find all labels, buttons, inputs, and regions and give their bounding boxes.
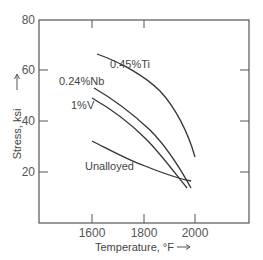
label-v: 1%V — [71, 99, 95, 111]
plot-frame — [39, 20, 249, 223]
curve-v — [92, 98, 187, 188]
x-tick-label-1600: 1600 — [79, 226, 106, 240]
curve-nb — [94, 88, 191, 188]
y-tick-label-40: 40 — [22, 114, 36, 128]
label-ti: 0.45%Ti — [110, 58, 150, 70]
label-nb: 0.24%Nb — [59, 75, 104, 87]
label-unalloyed: Unalloyed — [85, 160, 134, 172]
y-ticks-right — [240, 70, 249, 172]
stress-temperature-chart: 80 60 40 20 1600 1800 2000 Temperature, … — [0, 0, 263, 260]
x-ticks-top — [92, 20, 144, 28]
y-axis-arrow-icon — [15, 74, 20, 90]
y-ticks-left — [39, 70, 48, 172]
x-tick-label-1800: 1800 — [131, 226, 158, 240]
x-tick-label-2000: 2000 — [182, 226, 209, 240]
x-axis-arrow-icon — [177, 245, 190, 250]
y-tick-label-60: 60 — [22, 63, 36, 77]
y-axis-label: Stress, ksi — [11, 109, 23, 160]
x-ticks-bottom — [92, 214, 195, 223]
y-tick-label-20: 20 — [22, 165, 36, 179]
x-axis-label: Temperature, °F — [95, 241, 174, 253]
y-tick-label-80: 80 — [22, 13, 36, 27]
